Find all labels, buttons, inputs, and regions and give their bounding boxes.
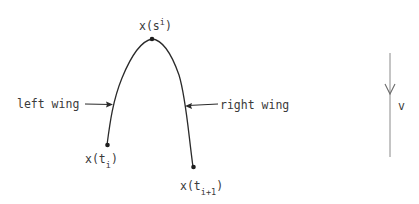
- peak-point: [150, 37, 155, 42]
- right-end-label: x(ti+1): [180, 179, 223, 197]
- wing-diagram: x(si) left wing right wing x(ti) x(ti+1)…: [0, 0, 419, 204]
- direction-vector-arrow-icon: [385, 53, 395, 157]
- left-end-label: x(ti): [85, 152, 118, 170]
- right-end-point: [191, 165, 196, 170]
- left-wing-arrow-icon: [85, 102, 113, 108]
- left-end-point: [105, 143, 110, 148]
- right-wing-arrow-icon: [185, 103, 218, 109]
- peak-label: x(si): [139, 17, 172, 33]
- left-wing-label: left wing: [17, 97, 79, 111]
- arch-curve: [107, 39, 193, 167]
- diagram-svg: x(si) left wing right wing x(ti) x(ti+1)…: [0, 0, 419, 204]
- vector-label: v: [398, 99, 405, 113]
- right-wing-label: right wing: [220, 98, 289, 112]
